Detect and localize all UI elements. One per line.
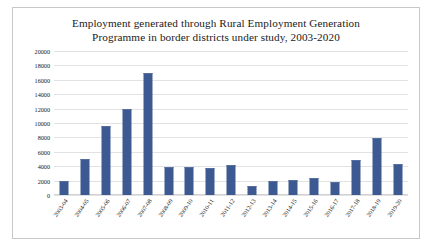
y-axis-tick-label: 10000 xyxy=(35,120,50,127)
bar xyxy=(372,138,381,195)
y-axis-tick-label: 4000 xyxy=(38,163,50,170)
bar xyxy=(81,159,90,195)
y-axis-tick-label: 8000 xyxy=(38,134,50,141)
bar xyxy=(331,182,340,195)
y-axis-tick-label: 18000 xyxy=(35,62,50,69)
x-axis-tick-label: 2013-14 xyxy=(261,198,278,218)
chart-figure: Employment generated through Rural Emplo… xyxy=(12,7,420,239)
x-axis-tick-label: 2003-04 xyxy=(53,198,70,218)
bar-group: 2003-04 xyxy=(54,51,75,195)
x-axis-tick-label: 2018-19 xyxy=(365,198,382,218)
chart-title: Employment generated through Rural Emplo… xyxy=(13,17,419,44)
y-axis-tick-label: 20000 xyxy=(35,48,50,55)
x-axis-tick-label: 2017-18 xyxy=(344,198,361,218)
x-axis-tick-label: 2005-06 xyxy=(94,198,111,218)
x-axis-tick-label: 2004-05 xyxy=(74,198,91,218)
bar xyxy=(393,164,402,195)
bar-group: 2014-15 xyxy=(283,51,304,195)
bar xyxy=(247,186,256,195)
y-axis-tick-label: 6000 xyxy=(38,148,50,155)
x-axis-tick-label: 2014-15 xyxy=(282,198,299,218)
bar-group: 2009-10 xyxy=(179,51,200,195)
y-axis-tick-label: 16000 xyxy=(35,76,50,83)
bar xyxy=(351,160,360,195)
bar-group: 2015-16 xyxy=(304,51,325,195)
bar-group: 2005-06 xyxy=(96,51,117,195)
x-axis-tick-label: 2011-12 xyxy=(219,198,235,218)
chart-title-line-2: Programme in border districts under stud… xyxy=(13,31,419,45)
x-axis-tick-label: 2012-13 xyxy=(240,198,257,218)
bar xyxy=(226,165,235,195)
x-axis-tick-label: 2010-11 xyxy=(199,198,215,218)
bar xyxy=(164,167,173,195)
x-axis-tick-label: 2019-20 xyxy=(386,198,403,218)
gridline xyxy=(54,195,408,196)
y-axis-tick-label: 2000 xyxy=(38,177,50,184)
bar-group: 2011-12 xyxy=(221,51,242,195)
chart-title-line-1: Employment generated through Rural Emplo… xyxy=(13,17,419,31)
bar-group: 2006-07 xyxy=(116,51,137,195)
bar-group: 2019-20 xyxy=(387,51,408,195)
bar-group: 2008-09 xyxy=(158,51,179,195)
x-axis-tick-label: 2006-07 xyxy=(115,198,132,218)
bar-group: 2012-13 xyxy=(241,51,262,195)
bar-group: 2010-11 xyxy=(200,51,221,195)
x-axis-tick-label: 2007-08 xyxy=(136,198,153,218)
bar xyxy=(143,73,152,195)
bar xyxy=(102,126,111,195)
y-axis-tick-label: 14000 xyxy=(35,91,50,98)
x-axis-tick-label: 2016-17 xyxy=(323,198,340,218)
plot-area: 2000018000160001400012000100008000600040… xyxy=(54,51,408,195)
bar xyxy=(289,180,298,195)
y-axis-tick-label: 12000 xyxy=(35,105,50,112)
bars-layer: 2003-042004-052005-062006-072007-082008-… xyxy=(54,51,408,195)
x-axis-tick-label: 2015-16 xyxy=(303,198,320,218)
y-axis-tick-label: 0 xyxy=(47,192,50,199)
bar xyxy=(206,168,215,195)
bar xyxy=(60,181,69,195)
bar xyxy=(268,181,277,195)
x-axis-tick-label: 2008-09 xyxy=(157,198,174,218)
bar-group: 2013-14 xyxy=(262,51,283,195)
bar-group: 2004-05 xyxy=(75,51,96,195)
bar xyxy=(310,178,319,195)
bar xyxy=(122,109,131,195)
bar-group: 2007-08 xyxy=(137,51,158,195)
bar xyxy=(185,167,194,195)
bar-group: 2018-19 xyxy=(366,51,387,195)
bar-group: 2016-17 xyxy=(325,51,346,195)
x-axis-tick-label: 2009-10 xyxy=(178,198,195,218)
bar-group: 2017-18 xyxy=(346,51,367,195)
